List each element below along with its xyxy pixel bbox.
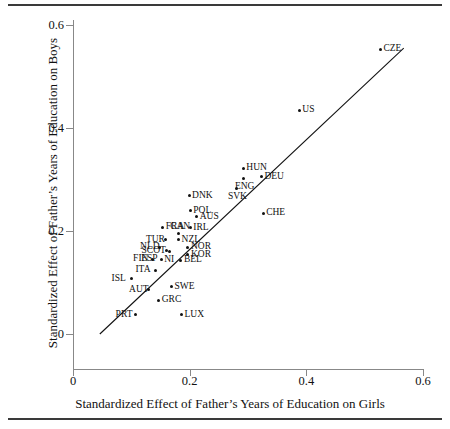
data-point-label: NI xyxy=(164,255,174,265)
data-point xyxy=(262,212,265,215)
data-point-label: DEU xyxy=(264,172,284,182)
plot-area: 00.20.40.6 00.20.40.6 CZEUSHUNDEUENGSVKC… xyxy=(0,0,450,429)
data-point-label: CZE xyxy=(383,44,401,54)
data-point-label: US xyxy=(302,105,314,115)
data-point-label: FIN xyxy=(133,254,148,264)
data-point-label: CHE xyxy=(266,208,285,218)
y-axis-title: Standardized Effect of Father’s Years of… xyxy=(45,28,61,358)
data-point-label: ITA xyxy=(135,265,150,275)
data-point xyxy=(242,167,245,170)
data-point xyxy=(160,258,163,261)
y-tick-mark xyxy=(66,334,74,335)
data-point-label: CAN xyxy=(170,222,190,232)
x-axis-title: Standardized Effect of Father’s Years of… xyxy=(40,396,420,412)
data-point-label: AUT xyxy=(129,285,149,295)
data-point-label: BEL xyxy=(184,255,202,265)
data-point-label: AUS xyxy=(200,212,219,222)
y-tick-mark xyxy=(66,25,74,26)
data-point xyxy=(298,109,301,112)
data-point-label: PRT xyxy=(116,310,133,320)
data-point-label: SVK xyxy=(228,192,247,202)
data-point-label: SWE xyxy=(175,282,195,292)
data-point-label: ISL xyxy=(112,274,126,284)
data-point-label: DNK xyxy=(192,191,213,201)
data-point xyxy=(154,269,157,272)
x-tick-label: 0.4 xyxy=(286,375,326,387)
data-point-label: GRC xyxy=(162,295,182,305)
x-tick-label: 0 xyxy=(53,375,93,387)
data-point xyxy=(379,48,382,51)
data-point-label: LUX xyxy=(185,310,205,320)
x-tick-label: 0.6 xyxy=(403,375,443,387)
data-point-label: IRL xyxy=(193,223,208,233)
y-tick-mark xyxy=(66,128,74,129)
regression-fit-line xyxy=(0,0,450,429)
y-tick-mark xyxy=(66,231,74,232)
figure-container: 00.20.40.6 00.20.40.6 CZEUSHUNDEUENGSVKC… xyxy=(0,0,450,429)
data-point xyxy=(157,299,160,302)
x-tick-label: 0.2 xyxy=(170,375,210,387)
